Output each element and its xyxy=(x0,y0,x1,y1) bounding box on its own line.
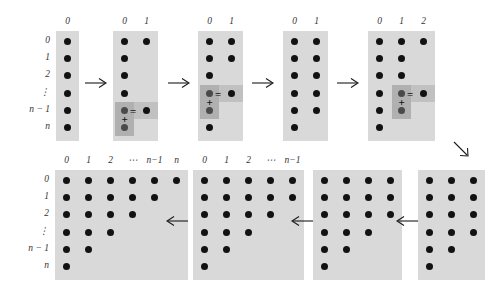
triangular-array-final-dot xyxy=(63,229,70,236)
arrow-left-2 xyxy=(288,215,314,227)
triangular-array-final-column-label: 0 xyxy=(56,156,78,166)
triangular-array-final-row-label: ⋮ xyxy=(15,227,49,237)
triangular-array-final-dot xyxy=(85,229,92,236)
triangular-array-final-row-label: n xyxy=(15,261,49,271)
triangular-array-final-dot xyxy=(129,177,136,184)
triangular-array-final-row-label: n − 1 xyxy=(15,244,49,254)
triangular-array-final-row-label: 2 xyxy=(15,209,49,219)
arrow-right-4 xyxy=(336,77,362,89)
triangular-array-final-column-label: ⋯ xyxy=(122,156,144,166)
triangular-array-final-dot xyxy=(85,246,92,253)
triangular-array-final-row-label: 0 xyxy=(15,175,49,185)
triangular-array-final-column-label: n−1 xyxy=(144,156,166,166)
triangular-array-final-dot xyxy=(63,263,70,270)
triangular-array-final-dot xyxy=(107,177,114,184)
triangular-array-final-dot xyxy=(63,246,70,253)
triangular-array-final-dot xyxy=(63,177,70,184)
triangular-array-final: 012⋯n−1n012⋮n − 1n xyxy=(0,0,489,286)
triangular-array-final-column-label: n xyxy=(166,156,188,166)
arrow-right-2 xyxy=(167,77,193,89)
arrow-left-1 xyxy=(393,215,419,227)
triangular-array-final-row-label: 1 xyxy=(15,192,49,202)
arrow-right-3 xyxy=(251,77,277,89)
arrow-right-1 xyxy=(84,77,110,89)
figure-canvas: 0012⋮n − 1n+=01+=0101+=012012⋯n−1012⋯n−1… xyxy=(0,0,489,286)
triangular-array-final-column-label: 1 xyxy=(78,156,100,166)
triangular-array-final-dot xyxy=(107,229,114,236)
arrow-left-3 xyxy=(163,215,189,227)
triangular-array-final-dot xyxy=(151,177,158,184)
triangular-array-final-dot xyxy=(85,177,92,184)
triangular-array-final-dot xyxy=(173,177,180,184)
triangular-array-final-column-label: 2 xyxy=(100,156,122,166)
arrow-wrap-down-right xyxy=(452,140,472,160)
